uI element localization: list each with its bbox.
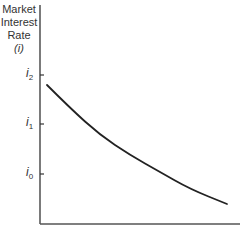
interest-rate-curve (47, 85, 227, 204)
chart-plot-area (0, 0, 240, 231)
